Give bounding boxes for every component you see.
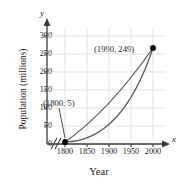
chart-figure: Population (millions) Year y x 300 250 2…	[0, 0, 184, 189]
data-point-marker	[62, 139, 68, 145]
plot-area	[0, 0, 184, 189]
data-point-marker	[150, 45, 156, 51]
y-axis	[44, 18, 51, 144]
annotation-leader-line	[59, 108, 65, 138]
grid-vertical	[65, 28, 153, 140]
